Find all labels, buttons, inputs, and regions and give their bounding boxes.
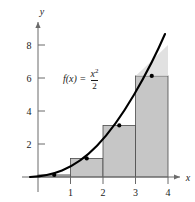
y-axis-label: y — [39, 6, 45, 17]
formula-denominator: 2 — [91, 80, 99, 91]
x-tick-label-2: 2 — [101, 187, 106, 198]
y-axis-arrow — [35, 22, 40, 28]
x-axis-label: x — [185, 172, 191, 183]
graph-canvas: 2 4 6 8 1 2 3 4 y x — [0, 0, 195, 202]
x-axis-arrow — [174, 174, 180, 179]
function-formula-annotation: f(x)=x22 — [63, 68, 98, 91]
midpoint-rectangles-figure: 2 4 6 8 1 2 3 4 y x f(x)=x22 — [0, 0, 195, 202]
y-tick-label-2: 2 — [27, 139, 32, 150]
midpoint-marker-2_5 — [117, 123, 121, 127]
midpoint-marker-3_5 — [150, 74, 154, 78]
midpoint-marker-1_5 — [85, 156, 89, 160]
formula-numerator: x2 — [91, 68, 99, 80]
x-tick-label-4: 4 — [166, 187, 171, 198]
formula-numerator-exponent: 2 — [95, 67, 99, 75]
formula-fraction: x22 — [91, 68, 99, 91]
formula-lhs: f(x) — [63, 73, 77, 84]
x-tick-label-1: 1 — [68, 187, 73, 198]
rectangle-3-4 — [136, 76, 169, 177]
y-tick-label-6: 6 — [27, 73, 32, 84]
y-tick-label-8: 8 — [27, 40, 32, 51]
rectangle-1-2 — [71, 158, 104, 177]
formula-equals: = — [80, 73, 86, 84]
y-tick-marks — [38, 45, 45, 144]
midpoint-marker-0_5 — [52, 173, 56, 177]
midpoint-rectangles — [38, 76, 168, 177]
x-tick-marks — [71, 177, 169, 184]
x-tick-label-3: 3 — [133, 187, 138, 198]
y-tick-label-4: 4 — [27, 106, 32, 117]
